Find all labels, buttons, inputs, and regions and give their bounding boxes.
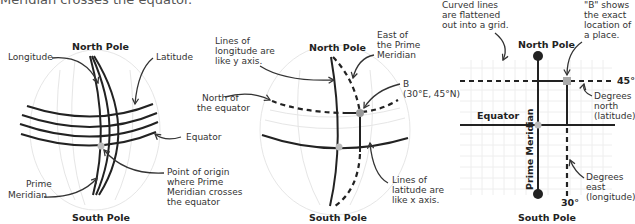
point-b [356, 109, 364, 117]
south-pole-label: South Pole [72, 212, 130, 223]
longitude-note: Lines of longitude are like y axis. [215, 36, 278, 66]
globe-panel-1: North Pole South Pole Longitude Latitude… [8, 41, 245, 223]
parallel-45n [272, 101, 344, 113]
diagram: North Pole South Pole Longitude Latitude… [0, 0, 635, 224]
latitude-line [20, 122, 158, 137]
equator-line [21, 132, 156, 146]
grid-panel-3: North Pole South Pole Equator Prime Meri… [442, 0, 635, 223]
origin-point [535, 122, 542, 129]
prime-meridian-label: Prime Meridian [524, 108, 535, 190]
latitude-note: Lines of latitude are like x axis. [392, 175, 447, 205]
point-b [563, 77, 571, 85]
equator-label: Equator [477, 110, 520, 121]
equator-label: Equator [186, 132, 222, 142]
north-note: North of the equator [197, 93, 250, 113]
latitude-line [22, 113, 157, 127]
north-deg-label: Degrees north (latitude) [594, 91, 635, 121]
flat-note: Curved lines are flattened out into a gr… [442, 0, 509, 30]
origin-point [336, 144, 343, 151]
prime-meridian-line [330, 57, 338, 206]
latitude-line [27, 104, 153, 117]
origin-label: Point of origin where Prime Meridian cro… [167, 167, 245, 207]
north-pole-label: North Pole [518, 39, 575, 50]
east-note: East of the Prime Meridian [377, 30, 423, 60]
lon-tick-label: 30° [561, 197, 579, 208]
b-note: "B" shows the exact location of a place. [584, 0, 634, 40]
north-pole-label: North Pole [72, 41, 129, 52]
origin-point [98, 143, 105, 150]
longitude-label: Longitude [8, 52, 53, 62]
latitude-label: Latitude [156, 52, 194, 62]
globe-ghost [260, 45, 410, 215]
point-b-label: B (30°E, 45°N) [403, 79, 460, 99]
north-pole-dot [533, 51, 543, 61]
south-pole-label: South Pole [309, 212, 367, 223]
east-deg-label: Degrees east (longitude) [586, 172, 635, 202]
north-pole-label: North Pole [309, 42, 366, 53]
equator-line [262, 135, 408, 148]
lat-tick-label: 45° [617, 75, 635, 86]
south-pole-label: South Pole [518, 212, 576, 223]
